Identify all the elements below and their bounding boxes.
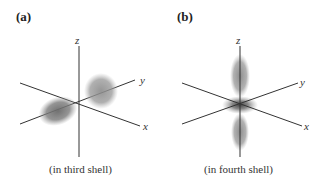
orbital-diagram-b: z y x bbox=[159, 0, 318, 190]
orbital-diagram-a: z y x bbox=[0, 0, 159, 190]
z-axis-label: z bbox=[74, 34, 80, 46]
z-axis-label: z bbox=[235, 34, 241, 46]
orbital-lobe-back bbox=[84, 73, 118, 109]
panel-b-caption: (in fourth shell) bbox=[159, 163, 318, 175]
x-axis-label: x bbox=[303, 120, 309, 132]
panel-a-caption: (in third shell) bbox=[1, 163, 160, 175]
y-axis-label: y bbox=[299, 76, 305, 88]
y-axis-label: y bbox=[139, 74, 145, 86]
y-axis bbox=[20, 80, 135, 124]
panel-b: (b) z y x (in fourth shell) bbox=[159, 0, 318, 190]
panel-a: (a) z y x (in third shell) bbox=[0, 0, 159, 190]
x-axis-label: x bbox=[142, 120, 148, 132]
x-axis bbox=[20, 83, 140, 126]
orbital-lobe-front bbox=[34, 91, 81, 131]
